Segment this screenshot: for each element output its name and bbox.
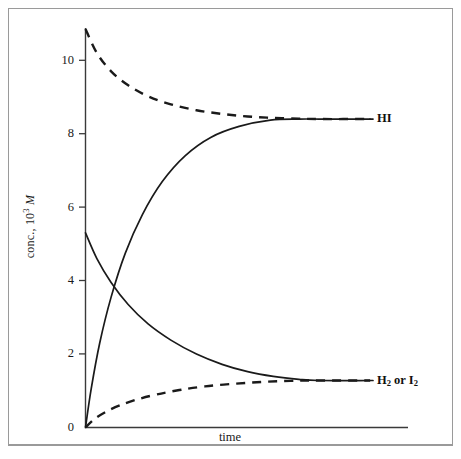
curve-2	[86, 233, 371, 381]
x-axis-label: time	[180, 430, 280, 445]
series-label-i2-subscript: 2	[414, 378, 418, 388]
y-axis-ticks	[79, 60, 86, 354]
y-tick-label-0: 0	[48, 421, 74, 434]
y-axis-label-exponent: 3	[21, 208, 31, 212]
series-label-h2-or-i2: H2 or I2	[377, 374, 418, 387]
y-tick-label-4: 4	[48, 274, 74, 287]
series-label-hi: HI	[377, 112, 392, 125]
chart-curves	[86, 29, 374, 427]
chart-plot-area	[0, 0, 461, 459]
y-tick-label-2: 2	[48, 347, 74, 360]
series-label-h2-subscript: 2	[387, 378, 391, 388]
y-tick-label-10: 10	[48, 54, 74, 67]
series-label-or-text: or I	[391, 373, 414, 387]
equilibrium-concentration-chart: 10 8 6 4 2 0 conc., 103 M time HI H2 or …	[0, 0, 461, 459]
y-axis-label: conc., 103 M	[21, 172, 38, 282]
y-tick-label-6: 6	[48, 201, 74, 214]
y-axis-label-prefix: conc., 10	[23, 213, 37, 258]
curve-3	[86, 380, 371, 427]
series-label-h2-element: H	[377, 373, 387, 387]
y-axis-label-unit: M	[23, 195, 37, 205]
y-tick-label-8: 8	[48, 127, 74, 140]
curve-1	[86, 29, 371, 119]
figure-page: 10 8 6 4 2 0 conc., 103 M time HI H2 or …	[0, 0, 461, 459]
